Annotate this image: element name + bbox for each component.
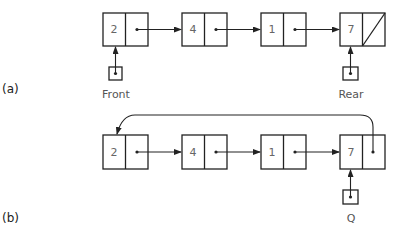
figure-b: (b) 2 4 1 7 bbox=[2, 115, 385, 225]
front-label: Front bbox=[102, 88, 131, 101]
node-value: 7 bbox=[348, 146, 355, 159]
node-value: 4 bbox=[190, 146, 197, 159]
null-slash-icon bbox=[363, 13, 386, 46]
node-value: 1 bbox=[269, 146, 276, 159]
node-value: 1 bbox=[269, 23, 276, 36]
circular-link-arrow bbox=[117, 115, 373, 152]
node-value: 7 bbox=[348, 23, 355, 36]
linked-list-diagram: (a) 2 4 1 7 bbox=[0, 0, 400, 235]
part-label-a: (a) bbox=[2, 82, 19, 96]
front-pointer: Front bbox=[102, 47, 131, 101]
node-value: 2 bbox=[111, 146, 118, 159]
part-label-b: (b) bbox=[2, 211, 19, 225]
node-value: 4 bbox=[190, 23, 197, 36]
node-b-4: 7 bbox=[340, 135, 385, 169]
q-pointer: Q bbox=[343, 170, 358, 225]
node-a-4: 7 bbox=[340, 13, 385, 46]
rear-label: Rear bbox=[338, 88, 364, 101]
q-label: Q bbox=[347, 212, 356, 225]
node-value: 2 bbox=[111, 23, 118, 36]
rear-pointer: Rear bbox=[338, 47, 364, 101]
figure-a: (a) 2 4 1 7 bbox=[2, 13, 385, 101]
